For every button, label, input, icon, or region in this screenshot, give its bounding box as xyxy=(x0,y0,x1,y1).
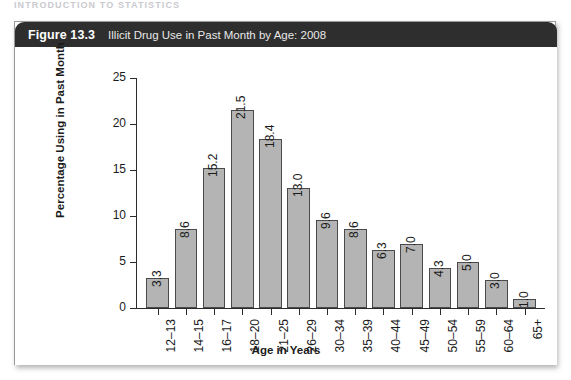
bar xyxy=(400,244,423,308)
x-tick-label: 12–13 xyxy=(164,319,178,352)
bar xyxy=(287,188,310,308)
bar xyxy=(175,229,198,308)
bar-value-label: 1.0 xyxy=(517,291,531,308)
x-tick-mark xyxy=(440,309,441,315)
figure-header: Figure 13.3 Illicit Drug Use in Past Mon… xyxy=(15,22,557,47)
y-tick-label: 20 xyxy=(100,116,126,130)
x-tick-label: 45–49 xyxy=(418,319,432,352)
bar-value-label: 3.3 xyxy=(150,270,164,287)
bar xyxy=(203,168,226,308)
y-tick-label: 25 xyxy=(100,70,126,84)
x-tick-mark xyxy=(383,309,384,315)
y-tick-label: 15 xyxy=(100,162,126,176)
bar-value-label: 6.3 xyxy=(375,242,389,259)
bar-chart: Percentage Using in Past Month Age in Ye… xyxy=(15,47,557,365)
x-tick-mark xyxy=(355,309,356,315)
x-tick-label: 30–34 xyxy=(333,319,347,352)
bar-value-label: 4.3 xyxy=(432,261,446,278)
bar-series: 3.38.615.221.518.413.09.68.66.37.04.35.0… xyxy=(137,78,545,308)
x-tick-label: 21–25 xyxy=(277,319,291,352)
x-tick-label: 16–17 xyxy=(220,319,234,352)
x-tick-label: 26–29 xyxy=(305,319,319,352)
x-tick-mark xyxy=(214,309,215,315)
x-tick-mark xyxy=(525,309,526,315)
x-tick-label: 65+ xyxy=(531,319,545,339)
bar xyxy=(344,229,367,308)
y-tick-mark xyxy=(130,262,136,263)
x-tick-label: 35–39 xyxy=(361,319,375,352)
y-tick-mark xyxy=(130,308,136,309)
bar xyxy=(316,220,339,308)
x-tick-mark xyxy=(186,309,187,315)
x-tick-label: 60–64 xyxy=(502,319,516,352)
bar-value-label: 18.4 xyxy=(263,124,277,147)
x-tick-mark xyxy=(242,309,243,315)
running-head: INTRODUCTION TO STATISTICS xyxy=(14,0,274,9)
y-tick-mark xyxy=(130,170,136,171)
figure-box: Figure 13.3 Illicit Drug Use in Past Mon… xyxy=(14,21,556,365)
y-tick-mark xyxy=(130,124,136,125)
y-tick-label: 5 xyxy=(100,254,126,268)
figure-body: Percentage Using in Past Month Age in Ye… xyxy=(15,47,557,365)
x-tick-mark xyxy=(158,309,159,315)
bar-value-label: 21.5 xyxy=(234,96,248,119)
x-tick-mark xyxy=(412,309,413,315)
bar-value-label: 13.0 xyxy=(291,174,305,197)
x-tick-label: 55–59 xyxy=(474,319,488,352)
x-tick-label: 14–15 xyxy=(192,319,206,352)
x-tick-mark xyxy=(468,309,469,315)
figure-caption: Illicit Drug Use in Past Month by Age: 2… xyxy=(108,29,326,41)
x-tick-mark xyxy=(327,309,328,315)
bar-value-label: 9.6 xyxy=(319,212,333,229)
x-tick-mark xyxy=(271,309,272,315)
bar-value-label: 8.6 xyxy=(178,221,192,238)
y-tick-mark xyxy=(130,216,136,217)
x-tick-mark xyxy=(299,309,300,315)
x-axis-line xyxy=(136,308,545,309)
x-tick-label: 18–20 xyxy=(248,319,262,352)
bar xyxy=(231,110,254,308)
y-axis-label: Percentage Using in Past Month xyxy=(54,15,66,245)
bar-value-label: 3.0 xyxy=(488,273,502,290)
bar-value-label: 8.6 xyxy=(347,221,361,238)
y-tick-label: 10 xyxy=(100,208,126,222)
x-tick-label: 40–44 xyxy=(389,319,403,352)
bar-value-label: 15.2 xyxy=(206,154,220,177)
x-tick-label: 50–54 xyxy=(446,319,460,352)
bar-value-label: 5.0 xyxy=(460,254,474,271)
bar-value-label: 7.0 xyxy=(404,236,418,253)
y-tick-label: 0 xyxy=(100,300,126,314)
y-tick-mark xyxy=(130,78,136,79)
bar xyxy=(259,139,282,308)
x-tick-mark xyxy=(496,309,497,315)
